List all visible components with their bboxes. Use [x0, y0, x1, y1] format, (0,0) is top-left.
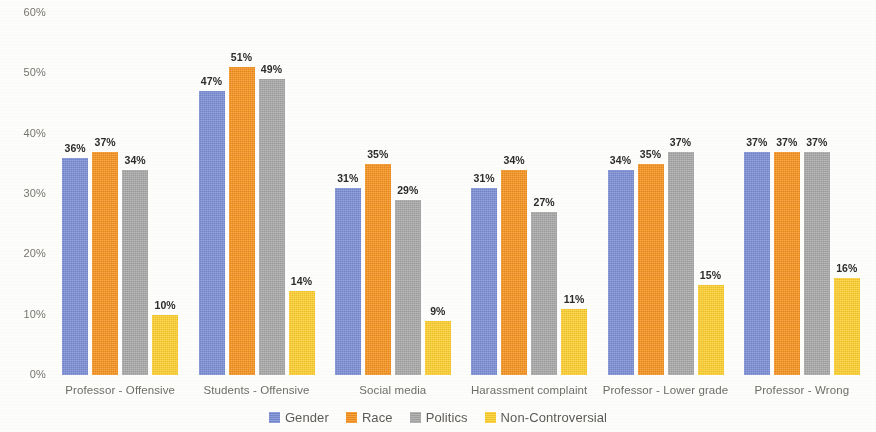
bar-value-label: 10%	[154, 299, 175, 311]
chart-legend: GenderRacePoliticsNon-Controversial	[0, 410, 876, 425]
bar-group: 37%37%37%16%	[744, 13, 860, 375]
y-axis-tick-label: 10%	[4, 308, 46, 320]
bar-group: 36%37%34%10%	[62, 13, 178, 375]
bar-value-label: 36%	[64, 142, 85, 154]
bar-value-label: 51%	[231, 51, 252, 63]
bar-group: 31%34%27%11%	[471, 13, 587, 375]
bar-group: 31%35%29%9%	[335, 13, 451, 375]
bar-value-label: 35%	[367, 148, 388, 160]
y-axis-tick-label: 60%	[4, 6, 46, 18]
bar-value-label: 37%	[94, 136, 115, 148]
category-label: Students - Offensive	[188, 384, 324, 396]
bar-value-label: 34%	[610, 154, 631, 166]
bar-race[interactable]	[365, 164, 391, 375]
category-label: Social media	[325, 384, 461, 396]
y-axis-tick-label: 40%	[4, 127, 46, 139]
bar-value-label: 9%	[430, 305, 445, 317]
legend-swatch-icon	[410, 412, 421, 423]
bar-value-label: 37%	[776, 136, 797, 148]
bar-politics[interactable]	[531, 212, 557, 375]
bar-race[interactable]	[229, 67, 255, 375]
bar-race[interactable]	[92, 152, 118, 375]
bar-value-label: 14%	[291, 275, 312, 287]
bar-value-label: 37%	[806, 136, 827, 148]
bar-value-label: 29%	[397, 184, 418, 196]
bar-value-label: 16%	[836, 262, 857, 274]
bar-non-controversial[interactable]	[289, 291, 315, 375]
bar-value-label: 47%	[201, 75, 222, 87]
bar-value-label: 34%	[503, 154, 524, 166]
bar-value-label: 31%	[473, 172, 494, 184]
bar-value-label: 37%	[670, 136, 691, 148]
legend-label: Gender	[285, 410, 329, 425]
bar-gender[interactable]	[744, 152, 770, 375]
bar-value-label: 27%	[533, 196, 554, 208]
bar-value-label: 35%	[640, 148, 661, 160]
legend-swatch-icon	[346, 412, 357, 423]
bar-gender[interactable]	[199, 91, 225, 375]
bar-value-label: 34%	[124, 154, 145, 166]
legend-item-race[interactable]: Race	[346, 410, 393, 425]
bar-non-controversial[interactable]	[834, 278, 860, 375]
legend-item-politics[interactable]: Politics	[410, 410, 468, 425]
y-axis-tick-label: 0%	[4, 368, 46, 380]
y-axis-tick-label: 20%	[4, 247, 46, 259]
bar-group: 47%51%49%14%	[199, 13, 315, 375]
bar-value-label: 49%	[261, 63, 282, 75]
bar-chart: 0%10%20%30%40%50%60% 36%37%34%10%47%51%4…	[0, 0, 876, 432]
legend-item-non-controversial[interactable]: Non-Controversial	[485, 410, 607, 425]
bar-gender[interactable]	[608, 170, 634, 375]
legend-label: Non-Controversial	[501, 410, 607, 425]
bar-politics[interactable]	[668, 152, 694, 375]
legend-label: Politics	[426, 410, 468, 425]
legend-swatch-icon	[269, 412, 280, 423]
category-label: Harassment complaint	[461, 384, 597, 396]
bar-politics[interactable]	[804, 152, 830, 375]
bar-gender[interactable]	[62, 158, 88, 375]
bar-non-controversial[interactable]	[698, 285, 724, 376]
bar-group: 34%35%37%15%	[608, 13, 724, 375]
legend-label: Race	[362, 410, 393, 425]
bar-gender[interactable]	[335, 188, 361, 375]
plot-area: 36%37%34%10%47%51%49%14%31%35%29%9%31%34…	[52, 13, 870, 375]
category-label: Professor - Lower grade	[597, 384, 733, 396]
bar-race[interactable]	[774, 152, 800, 375]
bar-value-label: 31%	[337, 172, 358, 184]
category-label: Professor - Wrong	[734, 384, 870, 396]
bar-value-label: 37%	[746, 136, 767, 148]
y-axis-tick-label: 50%	[4, 66, 46, 78]
bar-politics[interactable]	[395, 200, 421, 375]
y-axis-tick-label: 30%	[4, 187, 46, 199]
bar-race[interactable]	[638, 164, 664, 375]
bar-non-controversial[interactable]	[561, 309, 587, 375]
category-label: Professor - Offensive	[52, 384, 188, 396]
bar-race[interactable]	[501, 170, 527, 375]
bar-value-label: 11%	[564, 293, 585, 305]
bar-gender[interactable]	[471, 188, 497, 375]
bar-non-controversial[interactable]	[152, 315, 178, 375]
legend-item-gender[interactable]: Gender	[269, 410, 329, 425]
legend-swatch-icon	[485, 412, 496, 423]
bar-politics[interactable]	[259, 79, 285, 375]
bar-politics[interactable]	[122, 170, 148, 375]
bar-value-label: 15%	[700, 269, 721, 281]
bar-non-controversial[interactable]	[425, 321, 451, 375]
